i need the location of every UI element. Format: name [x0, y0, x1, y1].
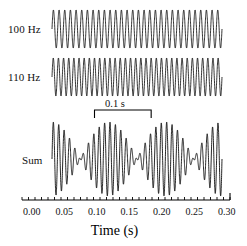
axis-tick-label: 0.05 [56, 207, 74, 217]
axis-tick-label: 0.00 [23, 207, 41, 217]
trace-label-sum: Sum [22, 155, 42, 166]
waveform-path [52, 58, 222, 96]
waveform-path [52, 10, 222, 48]
axis-tick-label: 0.25 [186, 207, 204, 217]
bracket-shape [95, 110, 152, 118]
beats-figure: 100 Hz 110 Hz Sum 0.1 s 0.000.050.100.15… [0, 0, 247, 246]
trace-label-100hz: 100 Hz [8, 24, 41, 35]
bracket-label-duration: 0.1 s [0, 99, 247, 110]
axis-tick-label: 0.20 [153, 207, 171, 217]
trace-label-110hz: 110 Hz [8, 72, 40, 83]
time-axis [22, 193, 230, 200]
trace-100hz [52, 10, 222, 48]
duration-bracket [95, 110, 152, 118]
waveform-path [52, 122, 222, 196]
trace-sum [52, 122, 222, 196]
axis-tick-label: 0.15 [120, 207, 138, 217]
trace-110hz [52, 58, 222, 96]
axis-title-time: Time (s) [0, 224, 247, 238]
axis-tick-label: 0.30 [218, 207, 236, 217]
axis-tick-label: 0.10 [88, 207, 106, 217]
